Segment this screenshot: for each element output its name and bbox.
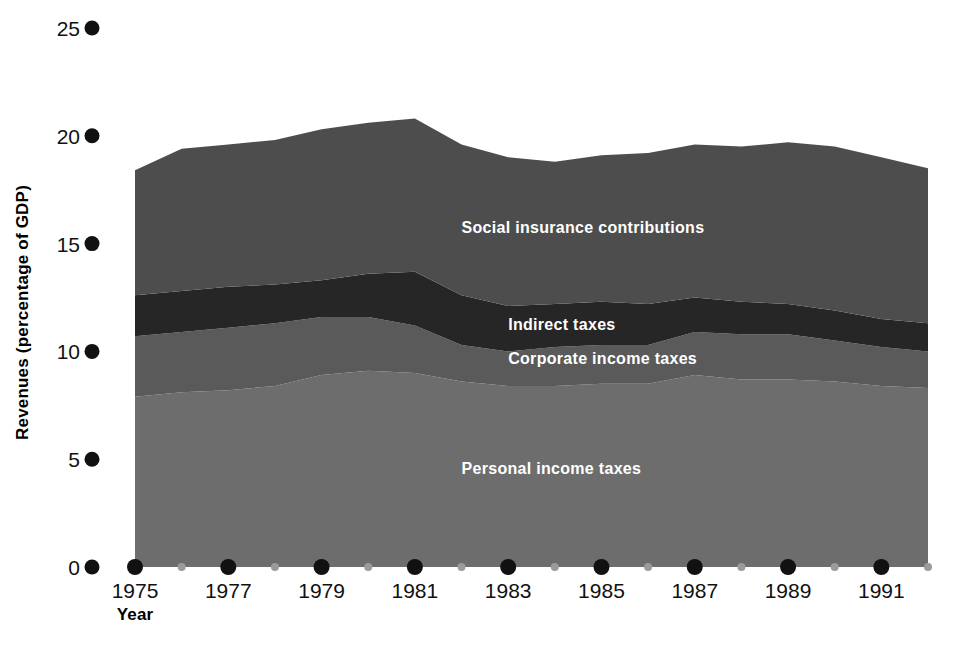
x-tick-label: 1975 <box>112 579 159 602</box>
x-tick-dot-major <box>687 559 703 575</box>
x-tick-dot-minor <box>737 563 745 571</box>
y-tick-dot <box>85 560 100 575</box>
x-tick-dot-minor <box>551 563 559 571</box>
stacked-area-chart: 0510152025 19751977197919811983198519871… <box>0 0 956 652</box>
x-tick-dot-major <box>220 559 236 575</box>
x-tick-label: 1983 <box>485 579 532 602</box>
x-tick-dot-minor <box>924 563 932 571</box>
y-tick-dot <box>85 452 100 467</box>
x-axis-title: Year <box>117 605 154 624</box>
x-tick-dot-minor <box>644 563 652 571</box>
x-tick-label: 1981 <box>392 579 439 602</box>
x-axis-tick-labels-group: 197519771979198119831985198719891991 <box>112 579 905 602</box>
x-tick-dot-major <box>780 559 796 575</box>
x-tick-dot-minor <box>178 563 186 571</box>
y-tick-dot <box>85 128 100 143</box>
series-label-indirect-taxes: Indirect taxes <box>508 316 615 333</box>
y-tick-label: 25 <box>57 17 80 40</box>
series-label-corporate-income-taxes: Corporate income taxes <box>508 350 697 367</box>
y-tick-dot <box>85 236 100 251</box>
y-tick-label: 10 <box>57 340 80 363</box>
x-tick-dot-major <box>127 559 143 575</box>
x-tick-label: 1985 <box>578 579 625 602</box>
x-tick-label: 1991 <box>858 579 905 602</box>
x-tick-dot-minor <box>364 563 372 571</box>
x-tick-dot-minor <box>271 563 279 571</box>
y-tick-dot <box>85 344 100 359</box>
x-tick-label: 1977 <box>205 579 252 602</box>
x-tick-dot-major <box>407 559 423 575</box>
x-tick-label: 1989 <box>765 579 812 602</box>
x-tick-dot-minor <box>458 563 466 571</box>
y-axis-title: Revenues (percentage of GDP) <box>13 185 32 440</box>
figure-root: 0510152025 19751977197919811983198519871… <box>0 0 956 652</box>
area-bands-group <box>135 119 928 567</box>
x-tick-dot-minor <box>831 563 839 571</box>
y-tick-label: 20 <box>57 125 80 148</box>
series-label-social-insurance-contributions: Social insurance contributions <box>462 219 705 236</box>
y-tick-label: 15 <box>57 233 80 256</box>
y-tick-label: 0 <box>68 556 80 579</box>
y-tick-dot <box>85 21 100 36</box>
x-tick-dot-major <box>593 559 609 575</box>
y-tick-label: 5 <box>68 448 80 471</box>
series-label-personal-income-taxes: Personal income taxes <box>462 460 642 477</box>
x-tick-label: 1987 <box>671 579 718 602</box>
x-tick-dot-major <box>314 559 330 575</box>
x-tick-dot-major <box>873 559 889 575</box>
x-tick-dot-major <box>500 559 516 575</box>
x-tick-label: 1979 <box>298 579 345 602</box>
